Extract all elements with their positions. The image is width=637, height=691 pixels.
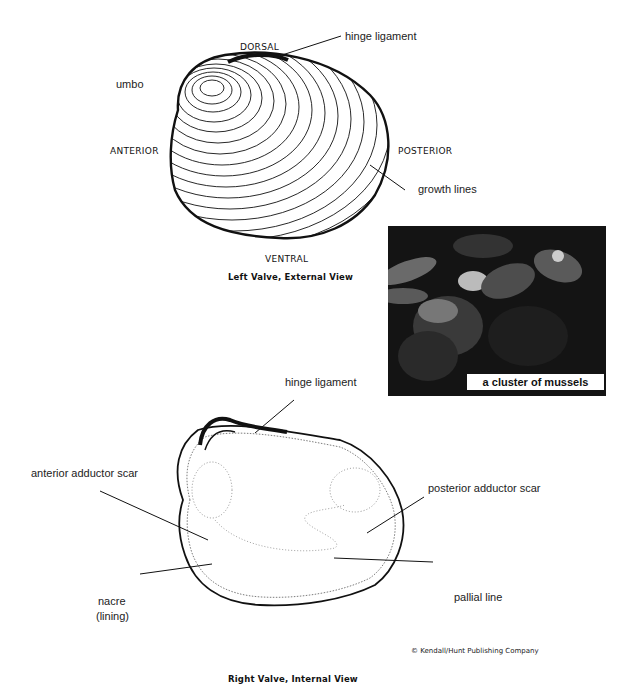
copyright-notice: © Kendall/Hunt Publishing Company <box>411 647 539 655</box>
label-nacre-lining: (lining) <box>96 610 129 622</box>
label-anterior-adductor-scar: anterior adductor scar <box>31 467 138 479</box>
label-posterior-adductor-scar: posterior adductor scar <box>428 482 541 494</box>
label-hinge-ligament-internal: hinge ligament <box>285 376 357 388</box>
label-nacre: nacre <box>98 595 126 607</box>
label-pallial-line: pallial line <box>454 591 502 603</box>
caption-internal-view: Right Valve, Internal View <box>228 674 358 684</box>
internal-shell-illustration <box>0 0 637 691</box>
